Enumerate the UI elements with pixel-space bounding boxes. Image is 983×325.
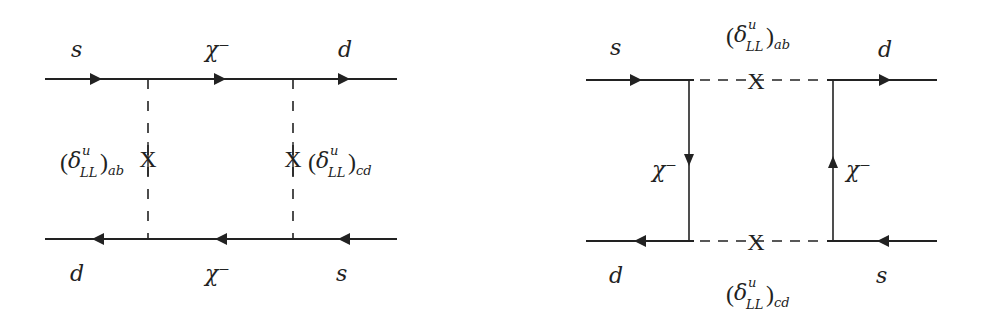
svg-text:LL: LL xyxy=(745,39,763,54)
svg-text:u: u xyxy=(330,143,338,158)
arrow-right-icon xyxy=(879,74,891,86)
svg-text:(: ( xyxy=(308,149,316,175)
arrow-right-icon xyxy=(214,73,226,85)
mass-insertion-x-top: X xyxy=(747,68,764,94)
arrow-right-icon xyxy=(90,73,102,85)
svg-text:u: u xyxy=(748,17,756,32)
svg-text:ab: ab xyxy=(108,163,124,178)
svg-text:LL: LL xyxy=(745,297,763,312)
arrow-right-icon xyxy=(630,74,642,86)
label-bottom-left-d: d xyxy=(70,261,84,286)
svg-text:u: u xyxy=(748,275,756,290)
svg-text:(: ( xyxy=(60,149,68,175)
svg-text:): ) xyxy=(766,281,774,307)
svg-text:): ) xyxy=(100,149,108,175)
diagram-right: X X s d d s χ⁻ χ⁻ ( δ u LL ) ab ( δ u LL… xyxy=(586,17,937,312)
arrow-left-icon xyxy=(877,235,889,247)
arrow-left-icon xyxy=(92,233,104,245)
arrow-left-icon xyxy=(215,233,227,245)
label-bottom-right-s: s xyxy=(876,263,887,288)
svg-text:ab: ab xyxy=(774,37,790,52)
feynman-diagrams: X X s χ⁻ d d χ⁻ s ( δ u LL ) ab ( δ u LL… xyxy=(0,0,983,325)
svg-text:): ) xyxy=(766,23,774,49)
label-bottom-left-d: d xyxy=(609,263,623,288)
svg-text:u: u xyxy=(82,143,90,158)
insertion-label-ab: ( δ u LL ) ab xyxy=(726,17,790,54)
label-chargino-right: χ⁻ xyxy=(844,157,871,182)
svg-text:LL: LL xyxy=(79,165,97,180)
label-top-middle-chi: χ⁻ xyxy=(203,37,230,62)
insertion-label-ab: ( δ u LL ) ab xyxy=(60,143,124,180)
label-top-right-d: d xyxy=(338,37,352,62)
mass-insertion-x-left: X xyxy=(139,146,156,172)
label-chargino-left: χ⁻ xyxy=(650,157,677,182)
label-bottom-middle-chi: χ⁻ xyxy=(203,261,230,286)
label-bottom-right-s: s xyxy=(336,261,347,286)
svg-text:(: ( xyxy=(726,281,734,307)
svg-text:cd: cd xyxy=(774,295,790,310)
label-top-right-d: d xyxy=(878,37,892,62)
mass-insertion-x-right: X xyxy=(284,146,301,172)
arrow-up-icon xyxy=(828,156,838,168)
diagram-left: X X s χ⁻ d d χ⁻ s ( δ u LL ) ab ( δ u LL… xyxy=(45,37,397,286)
arrow-right-icon xyxy=(338,73,350,85)
mass-insertion-x-bottom: X xyxy=(747,229,764,255)
label-top-left-s: s xyxy=(610,35,621,60)
svg-text:): ) xyxy=(348,149,356,175)
label-top-left-s: s xyxy=(71,37,82,62)
arrow-down-icon xyxy=(684,154,694,166)
svg-text:LL: LL xyxy=(327,165,345,180)
insertion-label-cd: ( δ u LL ) cd xyxy=(726,275,790,312)
arrow-left-icon xyxy=(338,233,350,245)
svg-text:(: ( xyxy=(726,23,734,49)
arrow-left-icon xyxy=(634,235,646,247)
svg-text:cd: cd xyxy=(356,163,372,178)
insertion-label-cd: ( δ u LL ) cd xyxy=(308,143,372,180)
